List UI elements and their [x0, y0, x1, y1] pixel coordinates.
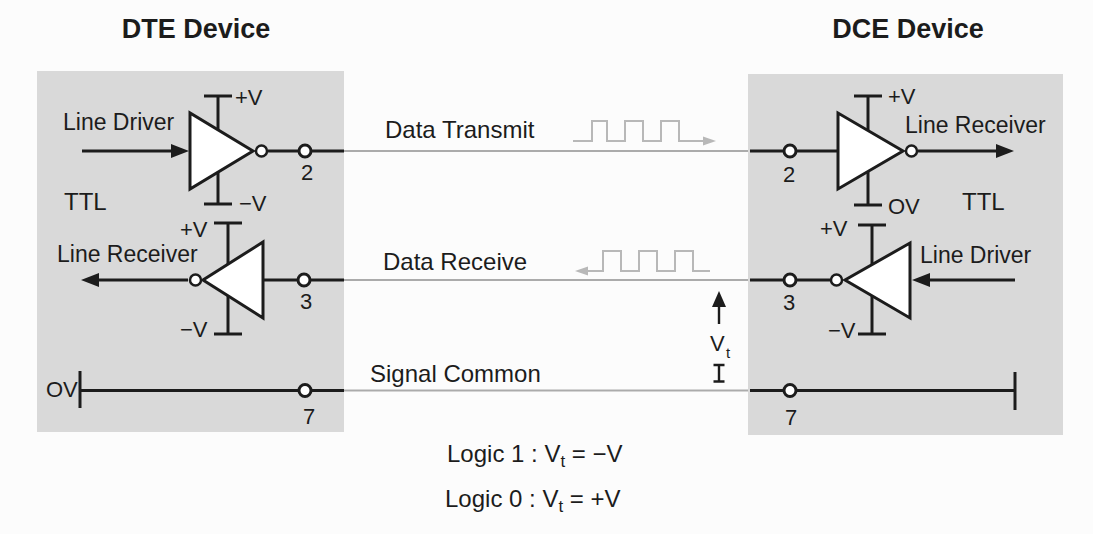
dce-receiver-label: Line Receiver	[905, 112, 1046, 138]
diagram-canvas: DTE Device Line Driver +V −V TTL 2	[0, 0, 1093, 534]
dte-receiver-vplus-label: +V	[180, 217, 208, 242]
vt-marker: V t	[710, 291, 731, 382]
dce-driver-label: Line Driver	[920, 242, 1032, 268]
logic0-equation: Logic 0 : Vt = +V	[445, 485, 621, 516]
transmit-label: Data Transmit	[385, 116, 535, 143]
receive-waveform-path	[587, 251, 710, 271]
dte-driver-vminus-label: −V	[239, 191, 267, 216]
dte-pin3-node-icon	[298, 274, 310, 286]
interconnect: Data Transmit Data Receive Signal Common…	[344, 116, 748, 391]
dte-pin7-label: 7	[303, 404, 315, 429]
dce-receiver-inverting-bubble-icon	[906, 146, 917, 157]
dte-receiver-inverting-bubble-icon	[190, 275, 201, 286]
logic1-prefix: Logic 1 : V	[447, 440, 560, 467]
logic1-equation: Logic 1 : Vt = −V	[447, 440, 623, 471]
dte-driver-label: Line Driver	[63, 109, 175, 135]
receive-waveform-arrow-icon	[575, 267, 588, 276]
dte-receiver-vminus-label: −V	[180, 317, 208, 342]
common-label: Signal Common	[370, 360, 541, 387]
dce-pin7-label: 7	[785, 405, 797, 430]
legend: Logic 1 : Vt = −V Logic 0 : Vt = +V	[445, 440, 623, 516]
logic0-prefix: Logic 0 : V	[445, 485, 558, 512]
dce-ttl-label: TTL	[962, 188, 1005, 215]
dce-device: DCE Device 2 Line Receiver +V OV TTL	[748, 14, 1063, 435]
vt-subscript: t	[726, 344, 731, 361]
dce-receiver-vzero-label: OV	[888, 194, 920, 219]
dte-driver-vplus-label: +V	[235, 85, 263, 110]
vt-symbol: V	[710, 331, 725, 356]
dce-receiver-vplus-label: +V	[888, 84, 916, 109]
dte-driver-inverting-bubble-icon	[256, 146, 267, 157]
vt-up-arrow-icon	[712, 291, 726, 307]
rs232-interface-diagram: DTE Device Line Driver +V −V TTL 2	[0, 0, 1093, 534]
dte-pin2-label: 2	[301, 160, 313, 185]
dce-pin3-node-icon	[784, 274, 796, 286]
dte-pin7-node-icon	[299, 385, 311, 397]
transmit-waveform-icon	[573, 121, 716, 146]
dce-driver-vplus-label: +V	[820, 216, 848, 241]
dte-common-ref-label: OV	[46, 377, 78, 402]
dce-title: DCE Device	[832, 14, 984, 44]
dce-pin3-label: 3	[783, 290, 795, 315]
receive-waveform-icon	[575, 251, 710, 276]
logic1-suffix: = −V	[565, 440, 622, 467]
dte-ttl-label: TTL	[64, 188, 107, 215]
dce-driver-inverting-bubble-icon	[831, 275, 842, 286]
dte-pin3-label: 3	[300, 289, 312, 314]
transmit-waveform-arrow-icon	[703, 137, 716, 146]
transmit-waveform-path	[573, 121, 704, 141]
dte-pin2-node-icon	[299, 145, 311, 157]
dce-pin2-label: 2	[783, 162, 795, 187]
dce-driver-vminus-label: −V	[828, 318, 856, 343]
dte-title: DTE Device	[122, 14, 271, 44]
logic0-suffix: = +V	[563, 485, 620, 512]
receive-label: Data Receive	[383, 248, 527, 275]
vt-reference-tick-icon	[714, 365, 725, 382]
dce-pin2-node-icon	[784, 145, 796, 157]
dce-pin7-node-icon	[784, 385, 796, 397]
dte-receiver-label: Line Receiver	[57, 241, 198, 267]
dte-device: DTE Device Line Driver +V −V TTL 2	[37, 14, 344, 432]
